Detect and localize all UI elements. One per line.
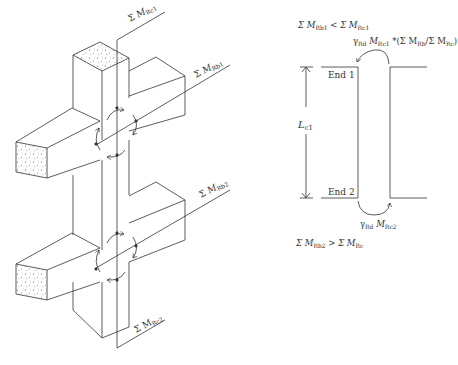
label-mrc2: Σ MRc2 (132, 312, 164, 336)
lower-back-beam (129, 182, 185, 262)
bottom-column (73, 262, 129, 338)
length-dimension (300, 67, 313, 198)
svg-text:Σ MRc1: Σ MRc1 (126, 1, 158, 25)
moment-label-top: γRd MRc1 *(Σ MRb/Σ MRc) (353, 36, 457, 47)
condition-top: Σ MRb1 < Σ MRc1 (297, 20, 369, 31)
moment-arrows-upper (95, 107, 137, 157)
svg-text:Σ MRc2: Σ MRc2 (132, 312, 164, 336)
label-mrb2: Σ MRb2 (197, 176, 229, 200)
top-column (73, 42, 129, 140)
upper-front-beam (16, 108, 100, 178)
diagram-canvas: Σ MRc1 Σ MRb1 Σ MRb2 Σ MRc2 Σ MRb1 < Σ M… (0, 0, 458, 365)
lower-front-beam (16, 233, 100, 300)
length-label: Lc1 (297, 119, 313, 132)
label-mrc1: Σ MRc1 (126, 1, 158, 25)
frame-3d-illustration (16, 12, 230, 348)
beam-axis-lower (96, 190, 230, 268)
svg-text:Σ MRb1: Σ MRb1 (192, 57, 224, 81)
moment-arrow-bottom (358, 201, 390, 215)
column-axis-line (117, 12, 165, 348)
label-mrb1: Σ MRb1 (192, 57, 224, 81)
column-schematic (300, 50, 427, 215)
beam-axis-upper (96, 65, 230, 145)
moment-label-bottom: γRd MRc2 (360, 219, 397, 230)
svg-text:Σ MRb2: Σ MRb2 (197, 176, 229, 200)
moment-arrow-top (357, 50, 389, 64)
end1-label: End 1 (328, 70, 355, 80)
end2-label: End 2 (328, 187, 355, 197)
condition-bottom: Σ MRb2 > Σ MRc (295, 238, 364, 249)
